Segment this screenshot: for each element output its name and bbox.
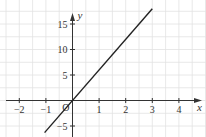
y-tick-label: 15 bbox=[58, 19, 68, 30]
y-tick-label: 10 bbox=[58, 44, 68, 55]
y-axis-label: y bbox=[77, 9, 83, 21]
y-axis-arrow-icon bbox=[70, 13, 75, 21]
x-axis-label: x bbox=[196, 101, 202, 113]
x-tick-label: −2 bbox=[14, 104, 25, 115]
y-tick-label: −5 bbox=[57, 121, 68, 132]
x-tick-label: −1 bbox=[41, 104, 52, 115]
x-tick-label: 4 bbox=[176, 104, 181, 115]
y-tick-label: 5 bbox=[63, 70, 68, 81]
x-tick-label: 3 bbox=[150, 104, 155, 115]
x-tick-label: 2 bbox=[123, 104, 128, 115]
axes: xy bbox=[6, 9, 202, 137]
grid bbox=[0, 0, 206, 137]
x-tick-label: 1 bbox=[97, 104, 102, 115]
line-chart: xy −2−11234−551015O bbox=[0, 0, 206, 137]
